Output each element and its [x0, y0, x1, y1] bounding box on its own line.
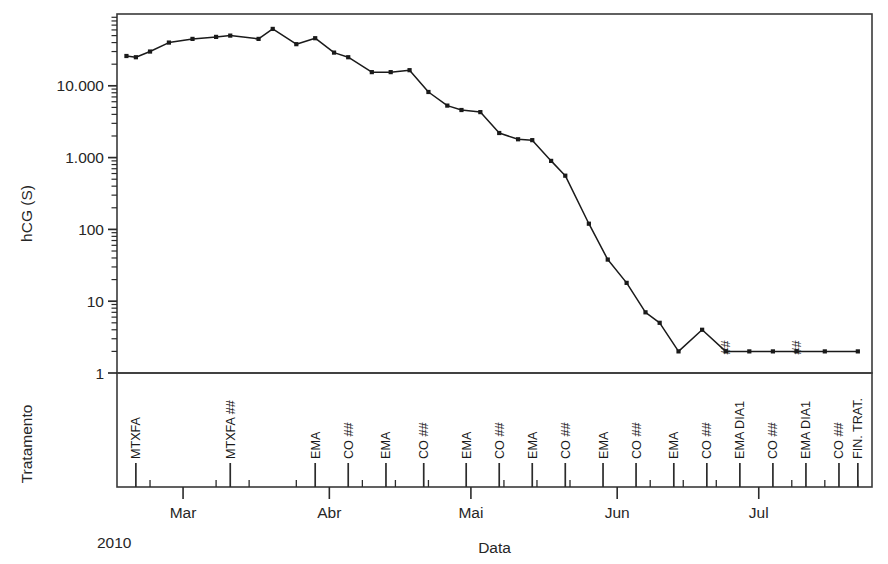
point-annotation: ##: [719, 340, 733, 354]
data-point-marker: [747, 349, 751, 353]
data-point-marker: [389, 70, 393, 74]
data-line: [126, 29, 857, 351]
data-point-marker: [214, 35, 218, 39]
treatment-label: CO ##: [832, 423, 846, 459]
y-tick-label: 1.000: [65, 149, 104, 166]
data-point-marker: [426, 90, 430, 94]
x-month-label: Jul: [749, 504, 769, 521]
treatment-label: MTXFA: [129, 416, 143, 459]
data-point-marker: [497, 131, 501, 135]
treatment-label: EMA: [379, 431, 393, 459]
x-axis-title: Data: [478, 539, 511, 556]
data-point-marker: [700, 328, 704, 332]
data-point-marker: [771, 349, 775, 353]
plot-frame: [117, 14, 872, 373]
data-point-marker: [856, 349, 860, 353]
y-tick-label: 10.000: [57, 77, 105, 94]
x-month-label: Jun: [605, 504, 630, 521]
treatment-label: EMA DIA1: [733, 401, 747, 459]
treatment-axis-title: Tratamento: [18, 405, 35, 484]
data-point-marker: [563, 174, 567, 178]
data-point-marker: [549, 159, 553, 163]
treatment-label: EMA: [526, 431, 540, 459]
data-point-marker: [313, 36, 317, 40]
treatment-label: FIN. TRAT.: [851, 398, 865, 459]
treatment-label: CO ##: [766, 423, 780, 459]
data-point-marker: [445, 104, 449, 108]
data-point-marker: [658, 321, 662, 325]
data-point-marker: [124, 54, 128, 58]
x-month-label: Mar: [170, 504, 197, 521]
treatment-label: EMA: [597, 431, 611, 459]
treatment-label: EMA DIA1: [799, 401, 813, 459]
y-tick-label: 100: [78, 221, 104, 238]
data-point-marker: [530, 138, 534, 142]
x-month-label: Mai: [458, 504, 483, 521]
data-point-marker: [370, 70, 374, 74]
data-point-marker: [134, 55, 138, 59]
data-point-marker: [167, 40, 171, 44]
treatment-label: CO ##: [700, 423, 714, 459]
data-point-marker: [459, 108, 463, 112]
data-point-marker: [294, 42, 298, 46]
data-point-marker: [228, 34, 232, 38]
y-tick-label: 10: [87, 293, 105, 310]
data-point-marker: [256, 37, 260, 41]
data-point-marker: [643, 310, 647, 314]
data-point-marker: [346, 55, 350, 59]
treatment-label: CO ##: [493, 423, 507, 459]
treatment-label: EMA: [667, 431, 681, 459]
data-point-marker: [148, 49, 152, 53]
data-point-marker: [190, 37, 194, 41]
data-point-marker: [606, 257, 610, 261]
data-point-marker: [271, 27, 275, 31]
hcg-treatment-chart: 1101001.00010.000MarAbrMaiJunJulMTXFAMTX…: [0, 0, 888, 564]
year-label: 2010: [97, 534, 132, 551]
y-tick-label: 1: [95, 365, 104, 382]
treatment-label: CO ##: [559, 423, 573, 459]
treatment-label: EMA: [460, 431, 474, 459]
treatment-label: CO ##: [342, 423, 356, 459]
data-point-marker: [478, 110, 482, 114]
data-point-marker: [587, 222, 591, 226]
data-point-marker: [625, 281, 629, 285]
x-month-label: Abr: [317, 504, 341, 521]
treatment-label: CO ##: [630, 423, 644, 459]
point-annotation: ##: [790, 340, 804, 354]
data-point-marker: [407, 68, 411, 72]
treatment-label: EMA: [309, 431, 323, 459]
data-point-marker: [516, 137, 520, 141]
chart-canvas: 1101001.00010.000MarAbrMaiJunJulMTXFAMTX…: [0, 0, 888, 564]
data-point-marker: [676, 349, 680, 353]
data-point-marker: [332, 51, 336, 55]
data-point-marker: [823, 349, 827, 353]
y-axis-title: hCG (S): [18, 185, 35, 242]
treatment-label: MTXFA ##: [224, 400, 238, 459]
treatment-label: CO ##: [417, 423, 431, 459]
